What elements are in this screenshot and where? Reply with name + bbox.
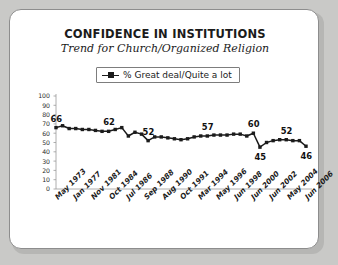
y-axis-tick-label: 90	[34, 102, 50, 109]
data-point-marker	[291, 139, 294, 142]
data-point-label: 52	[143, 127, 155, 137]
data-point-label: 46	[301, 151, 313, 161]
data-point-marker	[258, 145, 261, 148]
data-point-marker	[199, 134, 202, 137]
data-point-marker	[127, 134, 130, 137]
data-point-marker	[206, 134, 209, 137]
data-series-line	[56, 126, 306, 147]
y-axis-tick-label: 10	[34, 176, 50, 183]
data-point-marker	[173, 137, 176, 140]
y-axis-tick-label: 70	[34, 120, 50, 127]
data-point-marker	[61, 124, 64, 127]
data-point-label: 66	[51, 114, 63, 124]
data-point-marker	[87, 128, 90, 131]
data-point-marker	[239, 132, 242, 135]
y-axis-tick-label: 50	[34, 139, 50, 146]
data-point-marker	[81, 128, 84, 131]
y-axis-tick-label: 0	[34, 185, 50, 192]
data-point-marker	[278, 138, 281, 141]
data-point-marker	[67, 127, 70, 130]
data-point-marker	[252, 132, 255, 135]
data-point-marker	[94, 129, 97, 132]
data-point-marker	[107, 130, 110, 133]
data-point-marker	[271, 139, 274, 142]
data-point-marker	[298, 139, 301, 142]
data-point-marker	[100, 130, 103, 133]
chart-card: CONFIDENCE IN INSTITUTIONS Trend for Chu…	[9, 9, 319, 249]
data-point-label: 60	[248, 119, 260, 129]
data-point-marker	[245, 134, 248, 137]
data-point-marker	[114, 128, 117, 131]
y-axis-tick-label: 40	[34, 148, 50, 155]
data-point-marker	[232, 132, 235, 135]
data-point-marker	[304, 145, 307, 148]
data-point-label: 45	[254, 152, 266, 162]
data-point-marker	[146, 139, 149, 142]
y-axis-tick-label: 100	[34, 92, 50, 99]
y-axis-tick-label: 80	[34, 111, 50, 118]
chart-svg	[10, 10, 320, 250]
data-point-marker	[160, 135, 163, 138]
data-point-marker	[192, 135, 195, 138]
data-point-marker	[225, 133, 228, 136]
data-point-marker	[212, 133, 215, 136]
y-axis-tick-label: 60	[34, 130, 50, 137]
data-point-marker	[219, 133, 222, 136]
data-point-label: 62	[103, 117, 115, 127]
data-point-marker	[179, 138, 182, 141]
data-point-marker	[54, 126, 57, 129]
y-axis-tick-label: 20	[34, 167, 50, 174]
data-point-marker	[186, 137, 189, 140]
data-point-marker	[74, 127, 77, 130]
data-point-marker	[166, 136, 169, 139]
data-point-marker	[285, 138, 288, 141]
data-point-label: 52	[281, 126, 293, 136]
data-point-marker	[133, 131, 136, 134]
chart-plot-area: 1009080706050403020100May 1973Jan 1977No…	[10, 10, 320, 250]
data-point-marker	[120, 126, 123, 129]
data-point-label: 57	[202, 122, 214, 132]
data-point-marker	[265, 141, 268, 144]
y-axis-tick-label: 30	[34, 158, 50, 165]
